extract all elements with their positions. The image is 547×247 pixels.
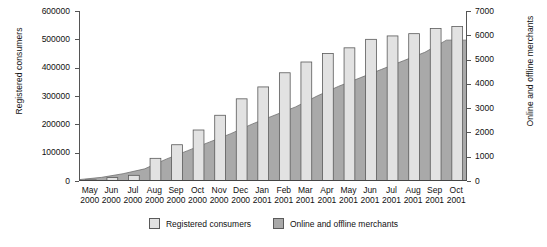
y-axis-right-tickmark [467, 35, 471, 36]
consumer-bar [279, 73, 290, 180]
y-axis-right-tick-label: 7000 [475, 7, 494, 16]
consumer-bar [452, 27, 463, 180]
y-axis-left-tickmark [75, 181, 79, 182]
plot-inner [80, 11, 466, 180]
consumer-bar [323, 54, 334, 181]
consumer-bar [150, 158, 161, 180]
consumer-bar [215, 115, 226, 180]
x-axis-label: Oct2001 [441, 186, 471, 205]
y-axis-left-tick-label: 200000 [0, 120, 70, 129]
y-axis-right-tick-label: 6000 [475, 31, 494, 40]
consumer-bar [236, 99, 247, 180]
chart-legend: Registered consumersOnline and offline m… [0, 218, 547, 229]
y-axis-right-tick-label: 1000 [475, 152, 494, 161]
y-axis-left-tick-label: 300000 [0, 92, 70, 101]
y-axis-right-tickmark [467, 181, 471, 182]
y-axis-right-tickmark [467, 84, 471, 85]
legend-label: Registered consumers [166, 219, 251, 229]
y-axis-right-tick-label: 4000 [475, 79, 494, 88]
y-axis-right-tickmark [467, 108, 471, 109]
y-axis-left-tick-label: 0 [0, 177, 70, 186]
y-axis-left-tick-label: 400000 [0, 63, 70, 72]
y-axis-right-tickmark [467, 157, 471, 158]
y-axis-right-tick-label: 0 [475, 177, 480, 186]
consumer-bar [344, 48, 355, 180]
legend-swatch-icon [149, 218, 160, 229]
x-axis-label-year: 2001 [441, 196, 471, 206]
consumer-bar [129, 175, 140, 180]
chart-svg [80, 11, 466, 180]
legend-item: Registered consumers [149, 218, 251, 229]
consumer-bar [258, 87, 269, 180]
y-axis-right-tick-label: 2000 [475, 128, 494, 137]
y-axis-right-tickmark [467, 60, 471, 61]
consumer-bar [366, 39, 377, 180]
y-axis-left-tick-label: 600000 [0, 7, 70, 16]
legend-label: Online and offline merchants [290, 219, 398, 229]
y-axis-right-tick-label: 5000 [475, 55, 494, 64]
y-axis-left-tick-label: 100000 [0, 148, 70, 157]
y-axis-right-title: Online and offline merchants [525, 0, 535, 146]
y-axis-right-tickmark [467, 132, 471, 133]
y-axis-left-tick-label: 500000 [0, 35, 70, 44]
consumer-bar [172, 145, 183, 180]
merchants-area [80, 40, 466, 180]
consumer-bar [193, 130, 204, 180]
legend-swatch-icon [273, 218, 284, 229]
consumer-bar [301, 62, 312, 180]
y-axis-right-tick-label: 3000 [475, 104, 494, 113]
consumer-bar [107, 178, 118, 180]
legend-item: Online and offline merchants [273, 218, 398, 229]
plot-area [79, 11, 467, 181]
chart-container: Registered consumers Online and offline … [0, 0, 547, 247]
consumer-bar [387, 36, 398, 180]
consumer-bar [409, 34, 420, 180]
y-axis-right-tickmark [467, 11, 471, 12]
consumer-bar [430, 29, 441, 180]
